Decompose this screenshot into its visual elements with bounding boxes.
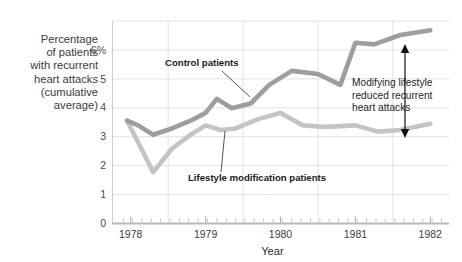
lifestyle-modification-patients-label: Lifestyle modification patients <box>188 172 326 183</box>
x-axis-title: Year <box>261 245 284 257</box>
y-axis-tick-labels: 0123456% <box>91 44 106 230</box>
y-tick-label-4: 4 <box>100 101 106 113</box>
x-tick-label-1978: 1978 <box>119 228 143 240</box>
y-tick-label-2: 2 <box>100 159 106 171</box>
gap-annotation-line-2: reduced recurrent <box>352 90 433 101</box>
x-tick-label-1979: 1979 <box>194 228 218 240</box>
gap-annotation-line-1: Modifying lifestyle <box>352 77 433 88</box>
y-tick-label-5: 5 <box>100 73 106 85</box>
x-axis-tick-labels: 19781979198019811982 <box>119 228 442 240</box>
y-tick-label-3: 3 <box>100 130 106 142</box>
plot-background <box>112 21 449 224</box>
x-tick-label-1980: 1980 <box>269 228 293 240</box>
chart-canvas: 0123456% 19781979198019811982 Control pa… <box>0 0 462 262</box>
gap-annotation-line-3: heart attacks <box>352 102 410 113</box>
control-patients-label: Control patients <box>165 57 239 68</box>
chart-figure: Percentage of patients with recurrent he… <box>0 0 462 262</box>
y-tick-label-0: 0 <box>100 217 106 229</box>
x-tick-label-1981: 1981 <box>344 228 368 240</box>
y-tick-label-1: 1 <box>100 188 106 200</box>
x-axis-title-group: Year <box>261 245 284 257</box>
x-tick-label-1982: 1982 <box>419 228 443 240</box>
y-tick-label-6: 6% <box>91 44 106 56</box>
